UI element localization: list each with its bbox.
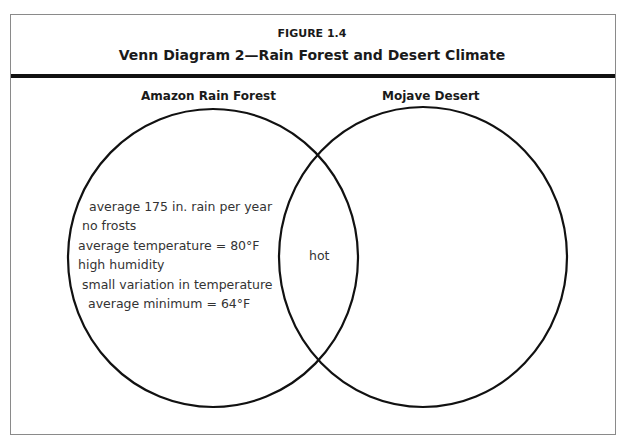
amazon-item: average temperature = 80°F (78, 236, 259, 256)
amazon-item: small variation in temperature (82, 275, 272, 295)
overlap-item: hot (309, 246, 329, 266)
amazon-item: average minimum = 64°F (88, 294, 250, 314)
amazon-item: high humidity (78, 255, 164, 275)
amazon-item: average 175 in. rain per year (89, 197, 272, 217)
amazon-item: no frosts (82, 216, 136, 236)
